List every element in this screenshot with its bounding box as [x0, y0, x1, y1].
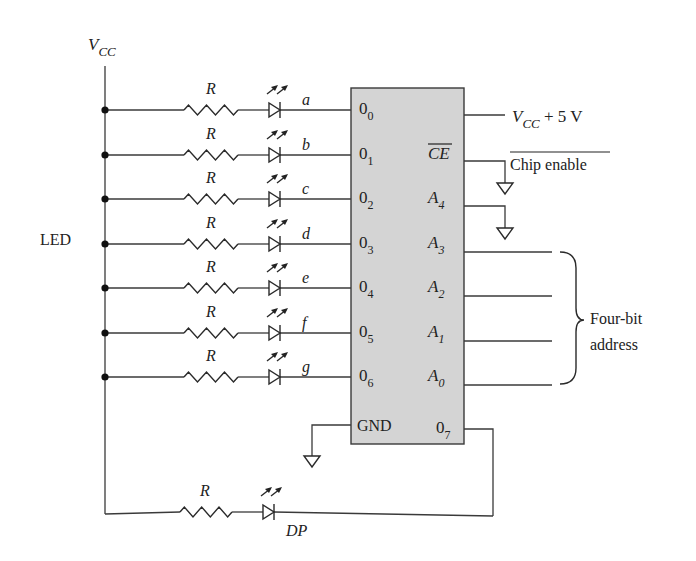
diode-triangle: [269, 370, 280, 384]
resistor-icon: [184, 194, 238, 204]
rom-led-driver-schematic: VCCRa00Rb01Rc02Rd03Re04Rf05Rg06LEDCEA4A3…: [0, 0, 696, 561]
resistor-icon: [184, 105, 238, 115]
diode-triangle: [269, 237, 280, 251]
led-e-icon: [267, 263, 288, 296]
ground-icon: [497, 228, 513, 239]
wire: [105, 512, 180, 514]
resistor-icon: [184, 372, 238, 382]
diode-triangle: [269, 148, 280, 162]
resistor-label: R: [205, 347, 216, 364]
wire: [274, 512, 493, 516]
junction-dot: [101, 195, 108, 202]
segment-label-a: a: [302, 91, 310, 108]
led-b-icon: [267, 130, 288, 163]
segment-label-f: f: [302, 314, 309, 332]
segment-label-c: c: [302, 180, 309, 197]
resistor-icon: [180, 507, 232, 517]
resistor-icon: [184, 150, 238, 160]
junction-dot: [101, 240, 108, 247]
led-g-icon: [267, 352, 288, 385]
vcc-supply-label: VCC + 5 V: [512, 107, 583, 131]
resistor-icon: [184, 283, 238, 293]
junction-dot: [101, 106, 108, 113]
junction-dot: [101, 284, 108, 291]
a4-wire: [464, 206, 505, 228]
resistor-label: R: [205, 258, 216, 275]
diode-triangle: [263, 505, 274, 519]
address-brace: [560, 252, 584, 384]
led-a-icon: [267, 85, 288, 118]
resistor-label: R: [205, 80, 216, 97]
rom-chip: [351, 88, 464, 444]
segment-label-e: e: [302, 269, 309, 286]
junction-dot: [101, 329, 108, 336]
resistor-label: R: [205, 169, 216, 186]
diode-triangle: [269, 192, 280, 206]
dp-return-wire: [464, 429, 493, 516]
wires: [105, 66, 552, 516]
junction-dot: [101, 373, 108, 380]
led-dp-icon: [261, 487, 282, 520]
vcc-rail-label: VCC: [88, 35, 116, 59]
resistor-label: R: [205, 303, 216, 320]
segment-label-g: g: [302, 358, 310, 376]
ground-icon: [497, 183, 513, 194]
junction-dot: [101, 151, 108, 158]
pin-label-ce: CE: [428, 144, 450, 163]
led-d-icon: [267, 219, 288, 252]
gnd-wire: [312, 425, 351, 456]
segment-label-b: b: [302, 136, 310, 153]
ground-icon: [304, 456, 320, 467]
led-label: LED: [40, 231, 71, 248]
segment-label-d: d: [302, 225, 311, 242]
led-c-icon: [267, 174, 288, 207]
led-f-icon: [267, 308, 288, 341]
diode-triangle: [269, 281, 280, 295]
address-label-1: Four-bit: [590, 310, 643, 327]
segment-label-dp: DP: [285, 522, 308, 539]
resistor-label: R: [205, 125, 216, 142]
symbols: [101, 85, 584, 520]
gnd-label: GND: [357, 417, 392, 434]
resistor-icon: [184, 239, 238, 249]
chip-enable-wire: [464, 161, 505, 183]
address-label-2: address: [590, 336, 638, 353]
resistor-icon: [184, 328, 238, 338]
chip-enable-label: Chip enable: [510, 156, 587, 174]
diode-triangle: [269, 326, 280, 340]
resistor-label: R: [199, 482, 210, 499]
resistor-label: R: [205, 214, 216, 231]
diode-triangle: [269, 103, 280, 117]
